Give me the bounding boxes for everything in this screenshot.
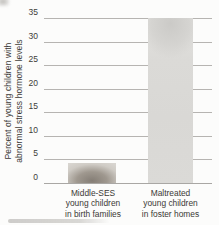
y-tick-label-25: 25 [0, 54, 38, 64]
y-tick-label-0: 0 [0, 172, 38, 182]
category-label-line: in foster homes [121, 209, 219, 219]
gridline-0 [44, 183, 212, 184]
category-label-line: young children [121, 198, 219, 208]
y-tick-label-15: 15 [0, 101, 38, 111]
scan-artifact-bottom [8, 219, 110, 223]
y-tick-label-10: 10 [0, 125, 38, 135]
scan-artifact-corner [0, 0, 9, 6]
category-label-maltreated: Maltreated young children in foster home… [121, 188, 219, 219]
category-label-line: Maltreated [121, 188, 219, 198]
bar-maltreated-foster-homes [148, 18, 193, 183]
y-tick-label-5: 5 [0, 148, 38, 158]
y-tick-label-20: 20 [0, 78, 38, 88]
y-tick-label-35: 35 [0, 7, 38, 17]
plot-area [44, 18, 212, 184]
y-axis-ticks: 05101520253035 [0, 18, 40, 184]
bar-middle-ses-birth-families [68, 163, 116, 183]
y-tick-label-30: 30 [0, 31, 38, 41]
bar-chart-figure: Percent of young children with abnormal … [0, 0, 219, 225]
